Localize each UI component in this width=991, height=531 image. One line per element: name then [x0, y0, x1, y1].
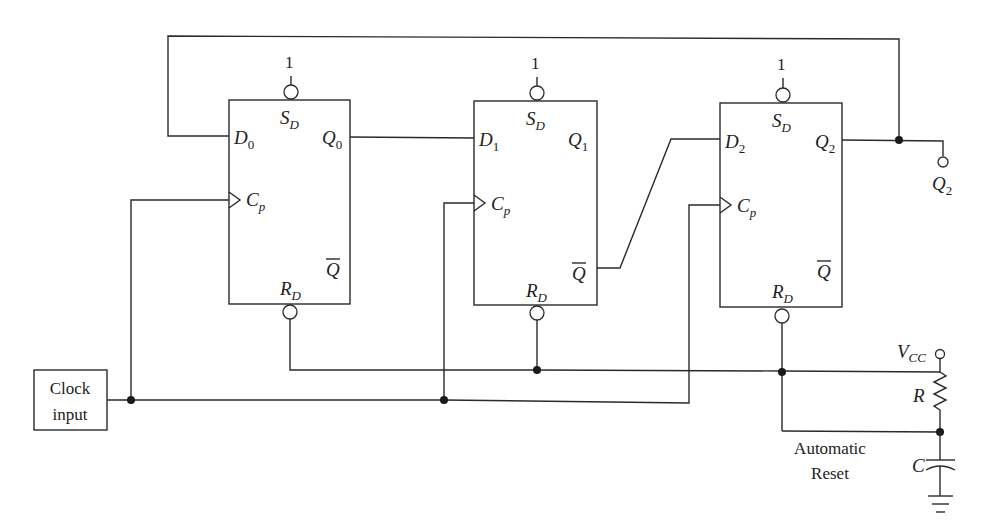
- automatic-reset-caption-line2: Reset: [811, 464, 849, 483]
- set-value-label: 1: [285, 53, 294, 72]
- reset-bubble-icon: [283, 305, 297, 319]
- wire-q0-d1: [350, 137, 474, 138]
- clock-input-label-line2: input: [53, 405, 88, 424]
- set-bubble-icon: [284, 85, 298, 99]
- wire-q2-output: [842, 140, 943, 156]
- q-bar-label: Q: [326, 259, 340, 280]
- set-bubble-icon: [530, 86, 544, 100]
- resistor-icon: [934, 358, 946, 432]
- rc-reset-circuit: VCC R C Automatic Reset: [794, 341, 955, 512]
- output-label: Q2: [932, 173, 952, 198]
- capacitor-label: C: [912, 455, 925, 476]
- clock-input-label-line1: Clock: [50, 379, 91, 398]
- set-value-label: 1: [777, 55, 786, 74]
- junction-dot-icon: [895, 136, 903, 144]
- junction-dot-icon: [533, 366, 541, 374]
- set-bubble-icon: [776, 88, 790, 102]
- flipflop-1: 1 SD D1 Q1 Cp Q RD: [474, 54, 597, 320]
- reset-bubble-icon: [775, 309, 789, 323]
- vcc-label: VCC: [897, 341, 926, 365]
- junction-dot-icon: [440, 396, 448, 404]
- flipflop-0: 1 SD D0 Q0 Cp Q RD: [229, 53, 350, 319]
- vcc-terminal-icon: [936, 350, 945, 359]
- junction-dot-icon: [778, 368, 786, 376]
- ring-counter-schematic: 1 SD D0 Q0 Cp Q RD 1 SD D1 Q1 Cp Q RD 1: [0, 0, 991, 531]
- automatic-reset-caption-line1: Automatic: [794, 439, 866, 458]
- data-wires: Q2: [350, 136, 952, 268]
- set-value-label: 1: [531, 54, 540, 73]
- reset-bubble-icon: [530, 306, 544, 320]
- q-bar-label: Q: [817, 261, 831, 282]
- output-terminal-icon: [938, 157, 948, 167]
- wire-qbar1-d2: [597, 139, 720, 268]
- flipflop-2: 1 SD D2 Q2 Cp Q RD: [720, 55, 842, 323]
- reset-wires: [290, 319, 940, 432]
- resistor-label: R: [912, 385, 925, 406]
- q-bar-label: Q: [572, 263, 586, 284]
- ground-icon: [928, 496, 953, 512]
- junction-dot-icon: [127, 396, 135, 404]
- clock-wires: Clock input: [34, 200, 720, 430]
